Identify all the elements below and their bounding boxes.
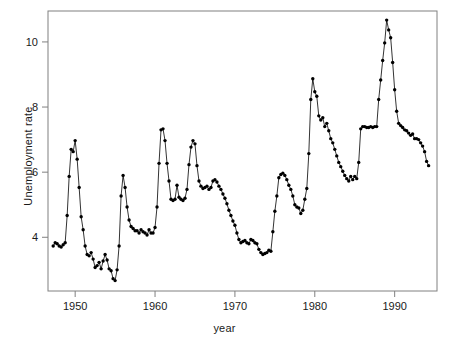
data-point [341, 169, 344, 172]
x-tick-label-1960: 1960 [143, 300, 167, 312]
data-point [421, 144, 424, 147]
data-point [329, 137, 332, 140]
data-point [193, 142, 196, 145]
data-point [137, 231, 140, 234]
data-point [325, 122, 328, 125]
data-point [305, 187, 308, 190]
x-tick-label-1980: 1980 [303, 300, 327, 312]
data-point [285, 178, 288, 181]
data-point [391, 61, 394, 64]
data-point-markers [51, 18, 430, 282]
x-axis-ticks [75, 291, 395, 297]
data-point [125, 205, 128, 208]
data-point [101, 259, 104, 262]
data-point [387, 28, 390, 31]
data-point [283, 174, 286, 177]
data-point [223, 197, 226, 200]
data-point [79, 215, 82, 218]
data-point [375, 125, 378, 128]
data-point [65, 214, 68, 217]
chart-canvas: 19501960197019801990 46810 [0, 0, 449, 343]
data-point [299, 212, 302, 215]
data-point [205, 184, 208, 187]
data-point [89, 251, 92, 254]
data-point [231, 219, 234, 222]
data-point [257, 248, 260, 251]
data-point [183, 197, 186, 200]
data-point [377, 98, 380, 101]
data-point [147, 228, 150, 231]
data-point [237, 238, 240, 241]
data-point [105, 258, 108, 261]
data-point [233, 224, 236, 227]
data-point [411, 132, 414, 135]
data-point [327, 129, 330, 132]
data-point [419, 141, 422, 144]
data-point [381, 59, 384, 62]
data-point [393, 88, 396, 91]
data-point [315, 95, 318, 98]
data-point [225, 202, 228, 205]
data-point [109, 269, 112, 272]
data-point [189, 145, 192, 148]
y-tick-label-4: 4 [32, 231, 38, 243]
data-point [383, 41, 386, 44]
data-point [113, 279, 116, 282]
data-point [161, 127, 164, 130]
data-point [81, 228, 84, 231]
data-point [417, 138, 420, 141]
data-point [321, 116, 324, 119]
data-point [51, 244, 54, 247]
data-point [229, 214, 232, 217]
data-point [423, 150, 426, 153]
data-point [255, 242, 258, 245]
data-point [337, 161, 340, 164]
data-point [339, 165, 342, 168]
data-point [185, 188, 188, 191]
data-point [71, 150, 74, 153]
data-point [227, 209, 230, 212]
data-point [303, 197, 306, 200]
data-point [273, 210, 276, 213]
data-point [151, 231, 154, 234]
data-point [219, 188, 222, 191]
data-point [119, 194, 122, 197]
data-point [197, 179, 200, 182]
data-point [323, 125, 326, 128]
data-point [301, 209, 304, 212]
data-point [167, 179, 170, 182]
data-point [357, 161, 360, 164]
x-axis-title: year [0, 322, 449, 334]
data-point [87, 254, 90, 257]
y-tick-label-10: 10 [26, 36, 38, 48]
data-point [347, 179, 350, 182]
data-point [217, 184, 220, 187]
data-point [173, 197, 176, 200]
data-point [311, 77, 314, 80]
data-point [335, 154, 338, 157]
y-axis-title: Unemployment rate [22, 86, 34, 226]
data-point [289, 188, 292, 191]
data-point [313, 90, 316, 93]
data-point [379, 78, 382, 81]
data-point [191, 139, 194, 142]
data-point [221, 192, 224, 195]
data-point [163, 139, 166, 142]
data-point [63, 241, 66, 244]
data-point [425, 160, 428, 163]
data-point [355, 177, 358, 180]
data-point [195, 164, 198, 167]
y-axis-ticks [42, 42, 48, 237]
data-point [269, 250, 272, 253]
x-tick-label-1990: 1990 [382, 300, 406, 312]
data-point [165, 162, 168, 165]
data-point [215, 180, 218, 183]
data-point [309, 98, 312, 101]
data-point [351, 178, 354, 181]
data-point [247, 242, 250, 245]
data-point [275, 194, 278, 197]
data-point [73, 139, 76, 142]
data-point [349, 175, 352, 178]
data-point [307, 152, 310, 155]
data-point [75, 157, 78, 160]
